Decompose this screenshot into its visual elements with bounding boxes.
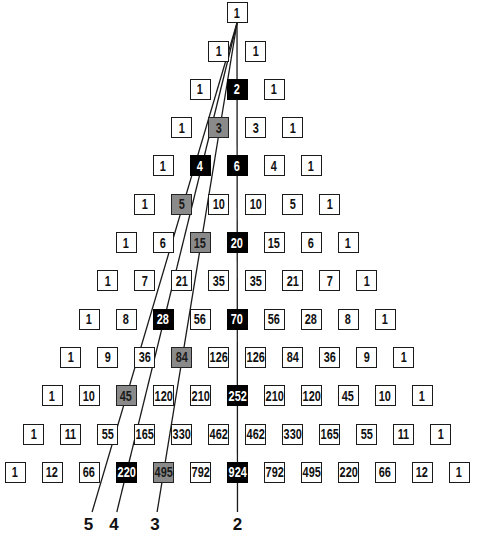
triangle-cell: 10 xyxy=(79,385,100,406)
cell-value: 11 xyxy=(398,427,410,441)
triangle-cell: 3 xyxy=(245,117,266,138)
cell-value: 220 xyxy=(339,465,357,479)
cell-value: 210 xyxy=(265,389,283,403)
triangle-cell: 1 xyxy=(393,347,414,368)
pascal-triangle-diagram: 1111211331146411510105116152015611721353… xyxy=(0,0,478,536)
triangle-cell: 1 xyxy=(79,309,100,330)
cell-value: 462 xyxy=(247,427,265,441)
cell-value: 210 xyxy=(191,389,209,403)
cell-value: 1 xyxy=(197,82,203,96)
cell-value: 20 xyxy=(231,236,243,250)
triangle-cell: 9 xyxy=(356,347,377,368)
cell-value: 7 xyxy=(142,274,148,288)
cell-value: 28 xyxy=(305,312,317,326)
cell-value: 126 xyxy=(247,350,265,364)
cell-value: 1 xyxy=(327,197,333,211)
triangle-cell-highlighted-black: 28 xyxy=(153,309,174,330)
cell-value: 1 xyxy=(438,427,444,441)
triangle-cell: 21 xyxy=(282,270,303,291)
triangle-cell: 55 xyxy=(97,424,118,445)
diagonal-label-3: 3 xyxy=(150,516,159,533)
triangle-cell: 66 xyxy=(375,462,396,483)
triangle-cell: 1 xyxy=(171,117,192,138)
triangle-cell: 8 xyxy=(116,309,137,330)
cell-value: 1 xyxy=(271,82,277,96)
cell-value: 8 xyxy=(345,312,351,326)
triangle-cell: 1 xyxy=(97,270,118,291)
triangle-cell: 8 xyxy=(338,309,359,330)
cell-value: 1 xyxy=(123,236,129,250)
triangle-cell: 1 xyxy=(430,424,451,445)
triangle-cell: 6 xyxy=(301,232,322,253)
cell-value: 6 xyxy=(234,159,240,173)
triangle-cell: 1 xyxy=(23,424,44,445)
cell-value: 1 xyxy=(105,274,111,288)
cell-value: 9 xyxy=(105,350,111,364)
triangle-cell: 56 xyxy=(190,309,211,330)
cell-value: 3 xyxy=(253,121,259,135)
triangle-cell: 1 xyxy=(301,155,322,176)
triangle-cell: 1 xyxy=(264,79,285,100)
cell-value: 1 xyxy=(142,197,148,211)
triangle-cell: 12 xyxy=(42,462,63,483)
triangle-cell-highlighted-gray: 15 xyxy=(190,232,211,253)
cell-value: 2 xyxy=(234,82,240,96)
triangle-cell: 10 xyxy=(375,385,396,406)
triangle-cell: 792 xyxy=(264,462,285,483)
triangle-cell-highlighted-gray: 84 xyxy=(171,347,192,368)
cell-value: 84 xyxy=(176,350,188,364)
triangle-cell: 1 xyxy=(42,385,63,406)
triangle-cell: 5 xyxy=(282,194,303,215)
triangle-cell: 35 xyxy=(208,270,229,291)
diagonal-label-4: 4 xyxy=(109,516,118,533)
triangle-cell: 7 xyxy=(134,270,155,291)
diagonal-label-2: 2 xyxy=(233,516,242,533)
triangle-cell: 165 xyxy=(134,424,155,445)
cell-value: 1 xyxy=(68,350,74,364)
triangle-cell-highlighted-gray: 495 xyxy=(153,462,174,483)
cell-value: 56 xyxy=(268,312,280,326)
triangle-cell: 12 xyxy=(412,462,433,483)
cell-value: 1 xyxy=(31,427,37,441)
cell-value: 1 xyxy=(86,312,92,326)
cell-value: 165 xyxy=(321,427,339,441)
triangle-cell: 6 xyxy=(153,232,174,253)
cell-value: 5 xyxy=(179,197,185,211)
cell-value: 1 xyxy=(253,44,259,58)
cell-value: 10 xyxy=(83,389,95,403)
cell-value: 84 xyxy=(287,350,299,364)
cell-value: 495 xyxy=(302,465,320,479)
cell-value: 21 xyxy=(287,274,299,288)
cell-value: 8 xyxy=(123,312,129,326)
triangle-cell: 15 xyxy=(264,232,285,253)
cell-value: 15 xyxy=(194,236,206,250)
triangle-cell: 462 xyxy=(208,424,229,445)
triangle-cell-highlighted-gray: 5 xyxy=(171,194,192,215)
cell-value: 1 xyxy=(216,44,222,58)
cell-value: 1 xyxy=(382,312,388,326)
cell-value: 70 xyxy=(231,312,243,326)
cell-value: 28 xyxy=(157,312,169,326)
cell-value: 15 xyxy=(268,236,280,250)
cell-value: 1 xyxy=(49,389,55,403)
cell-value: 330 xyxy=(173,427,191,441)
cell-value: 10 xyxy=(250,197,262,211)
cell-value: 3 xyxy=(216,121,222,135)
triangle-cell: 1 xyxy=(245,41,266,62)
cell-value: 36 xyxy=(139,350,151,364)
triangle-cell: 1 xyxy=(190,79,211,100)
triangle-cell: 1 xyxy=(375,309,396,330)
cell-value: 9 xyxy=(364,350,370,364)
cell-value: 462 xyxy=(210,427,228,441)
triangle-cell-highlighted-black: 6 xyxy=(227,155,248,176)
triangle-cell: 210 xyxy=(190,385,211,406)
triangle-cell: 36 xyxy=(319,347,340,368)
cell-value: 1 xyxy=(234,6,240,20)
triangle-cell: 1 xyxy=(5,462,26,483)
triangle-cell-highlighted-black: 924 xyxy=(227,462,248,483)
cell-value: 1 xyxy=(12,465,18,479)
triangle-cell-highlighted-gray: 3 xyxy=(208,117,229,138)
cell-value: 1 xyxy=(290,121,296,135)
triangle-cell: 126 xyxy=(208,347,229,368)
triangle-cell-highlighted-gray: 45 xyxy=(116,385,137,406)
